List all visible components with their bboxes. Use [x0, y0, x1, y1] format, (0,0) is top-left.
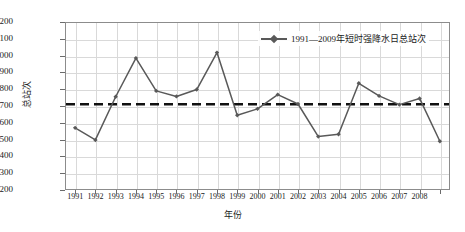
plot-area [65, 22, 450, 190]
gridline-horizontal [66, 124, 449, 125]
x-tick-mark [379, 190, 380, 194]
gridline-vertical [421, 23, 422, 189]
chart-legend: 1991—2009年短时强降水日总站次 [258, 31, 429, 46]
gridline-vertical [137, 23, 138, 189]
gridline-vertical [299, 23, 300, 189]
y-tick-label: 1200 [0, 185, 13, 194]
y-tick-label: 1800 [0, 84, 13, 93]
y-tick-label: 2200 [0, 17, 13, 26]
gridline-vertical [96, 23, 97, 189]
y-tick-mark [60, 140, 65, 141]
gridline-vertical [218, 23, 219, 189]
gridline-vertical [360, 23, 361, 189]
y-tick-label: 2100 [0, 34, 13, 43]
gridline-vertical [340, 23, 341, 189]
y-tick-mark [60, 190, 65, 191]
gridline-horizontal [66, 73, 449, 74]
x-tick-mark [75, 190, 76, 194]
gridline-vertical [157, 23, 158, 189]
x-tick-mark [95, 190, 96, 194]
gridline-vertical [441, 23, 442, 189]
gridline-horizontal [66, 90, 449, 91]
x-tick-mark [258, 190, 259, 194]
gridline-vertical [380, 23, 381, 189]
legend-marker-icon [261, 34, 287, 44]
gridline-vertical [259, 23, 260, 189]
gridline-vertical [177, 23, 178, 189]
y-tick-label: 2000 [0, 51, 13, 60]
gridline-vertical [400, 23, 401, 189]
y-tick-mark [60, 56, 65, 57]
x-tick-mark [217, 190, 218, 194]
gridline-horizontal [66, 107, 449, 108]
y-tick-mark [60, 123, 65, 124]
x-tick-mark [156, 190, 157, 194]
x-tick-mark [339, 190, 340, 194]
y-tick-label: 1500 [0, 135, 13, 144]
y-tick-mark [60, 72, 65, 73]
gridline-vertical [319, 23, 320, 189]
x-tick-mark [318, 190, 319, 194]
gridline-vertical [279, 23, 280, 189]
y-tick-mark [60, 22, 65, 23]
x-tick-mark [298, 190, 299, 194]
y-tick-mark [60, 156, 65, 157]
x-axis-title: 年份 [0, 208, 465, 221]
x-tick-mark [440, 190, 441, 194]
gridline-vertical [198, 23, 199, 189]
x-tick-mark [197, 190, 198, 194]
x-tick-mark [278, 190, 279, 194]
y-tick-label: 1900 [0, 67, 13, 76]
x-tick-mark [420, 190, 421, 194]
gridline-horizontal [66, 157, 449, 158]
gridline-vertical [238, 23, 239, 189]
chart-container: 2200210020001900180017001600150014001300… [0, 0, 465, 232]
gridline-horizontal [66, 141, 449, 142]
x-tick-mark [136, 190, 137, 194]
y-tick-mark [60, 89, 65, 90]
y-tick-label: 1300 [0, 168, 13, 177]
legend-label: 1991—2009年短时强降水日总站次 [291, 32, 426, 45]
x-tick-mark [116, 190, 117, 194]
y-tick-mark [60, 39, 65, 40]
gridline-vertical [76, 23, 77, 189]
x-tick-mark [237, 190, 238, 194]
y-tick-label: 1600 [0, 118, 13, 127]
y-tick-label: 1400 [0, 151, 13, 160]
y-tick-mark [60, 173, 65, 174]
y-tick-mark [60, 106, 65, 107]
x-tick-mark [359, 190, 360, 194]
gridline-horizontal [66, 57, 449, 58]
x-tick-mark [176, 190, 177, 194]
y-tick-label: 1700 [0, 101, 13, 110]
gridline-horizontal [66, 174, 449, 175]
y-axis-title: 总站次 [20, 65, 33, 125]
x-tick-mark [399, 190, 400, 194]
gridline-vertical [117, 23, 118, 189]
